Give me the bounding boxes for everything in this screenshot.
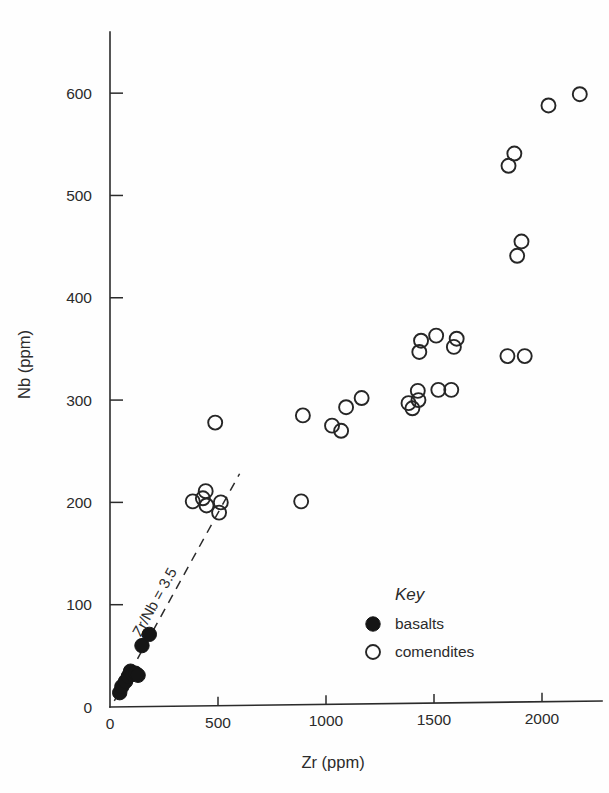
data-point-comendites-12 — [355, 391, 369, 405]
data-point-comendites-24 — [500, 349, 514, 363]
data-point-comendites-28 — [514, 235, 528, 249]
x-tick-label-1000: 1000 — [309, 712, 344, 729]
y-tick-label-600: 600 — [66, 85, 92, 102]
data-point-comendites-5 — [208, 416, 222, 430]
data-point-comendites-19 — [429, 329, 443, 343]
legend-label-basalts: basalts — [395, 615, 444, 632]
data-point-comendites-22 — [447, 340, 461, 354]
data-points-group — [113, 87, 587, 700]
data-point-comendites-29 — [518, 349, 532, 363]
data-point-basalts-9 — [142, 627, 156, 641]
data-point-comendites-31 — [573, 87, 587, 101]
x-tick-label-1500: 1500 — [417, 711, 452, 728]
y-tick-label-0: 0 — [83, 699, 92, 716]
legend-marker-basalts — [366, 617, 380, 631]
data-point-comendites-8 — [296, 408, 310, 422]
y-tick-label-300: 300 — [66, 392, 92, 409]
data-point-basalts-7 — [131, 668, 145, 682]
data-point-comendites-7 — [294, 494, 308, 508]
data-point-comendites-21 — [444, 383, 458, 397]
y-tick-label-400: 400 — [66, 289, 92, 306]
x-axis-line — [110, 701, 602, 707]
y-tick-label-200: 200 — [66, 494, 92, 511]
data-point-comendites-27 — [510, 249, 524, 263]
data-point-comendites-30 — [541, 98, 555, 112]
data-point-comendites-6 — [214, 495, 228, 509]
y-tick-label-500: 500 — [66, 187, 92, 204]
data-point-comendites-23 — [450, 332, 464, 346]
legend-label-comendites: comendites — [395, 643, 475, 660]
legend-marker-comendites — [366, 645, 380, 659]
legend-group: Keybasaltscomendites — [366, 585, 475, 660]
series-basalts — [113, 627, 157, 700]
y-axis-title: Nb (ppm) — [15, 330, 33, 399]
x-tick-label-500: 500 — [205, 714, 231, 731]
x-tick-label-2000: 2000 — [525, 710, 560, 727]
x-axis-title: Zr (ppm) — [301, 753, 364, 771]
data-point-comendites-26 — [507, 147, 521, 161]
scatter-plot: 01002003004005006000500100015002000 Zr/N… — [0, 0, 609, 793]
x-tick-label-0: 0 — [106, 715, 115, 732]
data-point-comendites-11 — [339, 400, 353, 414]
series-comendites — [186, 87, 587, 519]
y-tick-label-100: 100 — [66, 596, 92, 613]
data-point-comendites-20 — [431, 383, 445, 397]
legend-title: Key — [395, 585, 426, 604]
figure-container: 01002003004005006000500100015002000 Zr/N… — [0, 0, 609, 793]
